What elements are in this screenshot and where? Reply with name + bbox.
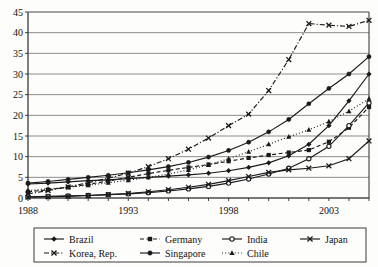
y-axis-tick-label: 35 — [13, 48, 23, 59]
data-point-marker — [226, 148, 230, 152]
legend-marker-filled-square — [148, 237, 152, 241]
data-point-marker — [287, 150, 291, 154]
data-point-marker — [66, 177, 70, 181]
x-axis-tick-label: 1988 — [18, 205, 38, 216]
y-axis-tick-label: 5 — [18, 172, 23, 183]
data-point-marker — [347, 124, 351, 128]
y-axis-tick-label: 0 — [18, 193, 23, 204]
data-point-marker — [166, 164, 170, 168]
data-point-marker — [186, 160, 190, 164]
legend-label: Chile — [247, 248, 269, 259]
y-axis-tick-label: 40 — [13, 27, 23, 38]
data-point-marker — [307, 102, 311, 106]
legend-label: Japan — [325, 234, 348, 245]
data-point-marker — [287, 117, 291, 121]
y-axis-tick-label: 20 — [13, 110, 23, 121]
data-point-marker — [367, 55, 371, 59]
legend-marker-open-circle — [230, 237, 234, 241]
x-axis-tick-label: 1993 — [118, 205, 138, 216]
chart-legend: BrazilGermanyIndiaJapanKorea, Rep.Singap… — [34, 228, 366, 262]
data-point-marker — [126, 171, 130, 175]
data-point-marker — [327, 140, 331, 144]
y-axis-tick-label: 15 — [13, 131, 23, 142]
legend-label: Brazil — [69, 234, 94, 245]
data-point-marker — [307, 148, 311, 152]
chart-container: 051015202530354045 1988199319982003 Braz… — [0, 0, 378, 267]
legend-label: Korea, Rep. — [69, 248, 117, 259]
data-point-marker — [267, 153, 271, 157]
data-point-marker — [307, 157, 311, 161]
data-point-marker — [347, 72, 351, 76]
x-axis-tick-label: 1998 — [219, 205, 239, 216]
legend-label: Singapore — [165, 248, 206, 259]
data-point-marker — [367, 101, 371, 105]
y-axis-tick-label: 45 — [13, 7, 23, 18]
data-point-marker — [247, 156, 251, 160]
data-point-marker — [86, 175, 90, 179]
y-axis-tick-label: 25 — [13, 89, 23, 100]
data-point-marker — [106, 173, 110, 177]
y-axis-tick-label: 10 — [13, 151, 23, 162]
chart-background — [0, 0, 378, 267]
y-axis-tick-label: 30 — [13, 69, 23, 80]
line-chart: 051015202530354045 1988199319982003 Braz… — [0, 0, 378, 267]
data-point-marker — [327, 86, 331, 90]
legend-label: India — [247, 234, 268, 245]
legend-label: Germany — [165, 234, 202, 245]
data-point-marker — [327, 144, 331, 148]
data-point-marker — [206, 155, 210, 159]
legend-marker-filled-circle — [148, 251, 152, 255]
data-point-marker — [26, 181, 30, 185]
data-point-marker — [367, 105, 371, 109]
data-point-marker — [267, 130, 271, 134]
data-point-marker — [146, 168, 150, 172]
data-point-marker — [247, 140, 251, 144]
x-axis-tick-label: 2003 — [319, 205, 339, 216]
data-point-marker — [46, 179, 50, 183]
